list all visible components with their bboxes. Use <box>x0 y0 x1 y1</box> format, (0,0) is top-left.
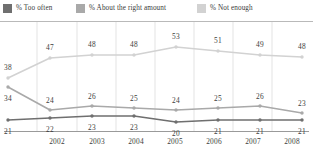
data-label-not-enough-0: 38 <box>4 63 12 72</box>
data-point-not-enough-7[interactable] <box>300 55 303 58</box>
data-point-about-right-5[interactable] <box>216 106 219 109</box>
legend-item-about-right[interactable]: % About the right amount <box>76 4 166 13</box>
data-label-about-right-0: 34 <box>4 94 12 103</box>
legend-swatch-about-right <box>76 4 85 13</box>
data-point-about-right-6[interactable] <box>258 104 261 107</box>
line-chart: % Too often % About the right amount % N… <box>0 0 313 154</box>
data-point-about-right-3[interactable] <box>132 106 135 109</box>
chart-legend: % Too often % About the right amount % N… <box>0 0 313 22</box>
data-point-too-often-1[interactable] <box>48 116 51 119</box>
data-point-about-right-7[interactable] <box>300 111 303 114</box>
data-label-not-enough-4: 53 <box>172 32 180 41</box>
data-label-too-often-7: 21 <box>298 127 306 136</box>
plot-area <box>0 22 313 132</box>
data-point-not-enough-2[interactable] <box>90 53 93 56</box>
data-label-not-enough-5: 51 <box>214 36 222 45</box>
legend-label-not-enough: % Not enough <box>210 4 253 13</box>
data-label-too-often-0: 21 <box>4 127 12 136</box>
data-point-too-often-7[interactable] <box>300 118 303 121</box>
data-label-too-often-5: 21 <box>214 127 222 136</box>
data-label-not-enough-1: 47 <box>46 43 54 52</box>
data-point-too-often-2[interactable] <box>90 114 93 117</box>
legend-label-about-right: % About the right amount <box>89 4 166 13</box>
x-tick-label-2004: 2004 <box>114 137 158 146</box>
data-label-too-often-2: 23 <box>88 123 96 132</box>
data-label-too-often-4: 20 <box>172 129 180 138</box>
legend-label-too-often: % Too often <box>16 4 52 13</box>
x-tick-label-2007: 2007 <box>231 137 275 146</box>
data-label-not-enough-3: 48 <box>130 40 138 49</box>
data-point-not-enough-6[interactable] <box>258 53 261 56</box>
data-label-not-enough-2: 48 <box>88 40 96 49</box>
data-label-about-right-5: 25 <box>214 94 222 103</box>
plot-svg <box>0 22 313 132</box>
data-label-about-right-3: 25 <box>130 94 138 103</box>
x-axis-labels: 2002200320042005200620072008 <box>0 135 313 154</box>
data-point-about-right-4[interactable] <box>174 108 177 111</box>
data-label-about-right-6: 26 <box>256 92 264 101</box>
x-tick-label-2006: 2006 <box>192 137 236 146</box>
data-point-too-often-4[interactable] <box>174 120 177 123</box>
data-point-about-right-1[interactable] <box>48 108 51 111</box>
data-point-not-enough-5[interactable] <box>216 49 219 52</box>
legend-item-not-enough[interactable]: % Not enough <box>197 4 253 13</box>
data-point-not-enough-1[interactable] <box>48 56 51 59</box>
data-label-about-right-4: 24 <box>172 96 180 105</box>
data-point-too-often-6[interactable] <box>258 118 261 121</box>
data-point-about-right-2[interactable] <box>90 104 93 107</box>
data-label-not-enough-7: 48 <box>298 42 306 51</box>
data-label-about-right-7: 23 <box>298 99 306 108</box>
x-tick-label-2002: 2002 <box>35 137 79 146</box>
x-tick-label-2008: 2008 <box>270 137 313 146</box>
data-point-about-right-0[interactable] <box>6 85 9 88</box>
data-point-too-often-0[interactable] <box>6 118 9 121</box>
data-point-not-enough-3[interactable] <box>132 53 135 56</box>
data-label-about-right-1: 24 <box>46 96 54 105</box>
data-label-too-often-6: 21 <box>256 127 264 136</box>
data-point-not-enough-0[interactable] <box>6 76 9 79</box>
legend-swatch-not-enough <box>197 4 206 13</box>
data-label-too-often-3: 23 <box>130 123 138 132</box>
legend-swatch-too-often <box>3 4 12 13</box>
data-point-not-enough-4[interactable] <box>174 45 177 48</box>
data-label-too-often-1: 22 <box>46 125 54 134</box>
data-point-too-often-3[interactable] <box>132 114 135 117</box>
data-point-too-often-5[interactable] <box>216 118 219 121</box>
data-label-about-right-2: 26 <box>88 92 96 101</box>
x-tick-label-2005: 2005 <box>153 137 197 146</box>
x-tick-label-2003: 2003 <box>75 137 119 146</box>
data-label-not-enough-6: 49 <box>256 40 264 49</box>
legend-item-too-often[interactable]: % Too often <box>3 4 52 13</box>
